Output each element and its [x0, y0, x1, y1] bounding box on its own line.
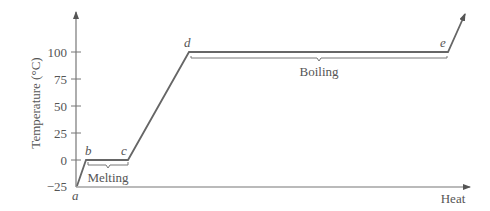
melting-label: Melting: [87, 170, 129, 185]
boiling-label: Boiling: [299, 64, 339, 79]
ytick-75: 75: [54, 72, 67, 87]
ytick-50: 50: [54, 99, 67, 114]
point-label-a: a: [72, 188, 79, 203]
x-axis-label: Heat: [441, 191, 466, 206]
ytick-100: 100: [48, 45, 68, 60]
ytick-25: 25: [54, 126, 67, 141]
boiling-brace: [191, 56, 447, 61]
point-label-b: b: [85, 143, 92, 158]
ytick-neg25: −25: [47, 179, 67, 194]
point-label-c: c: [121, 143, 127, 158]
heating-curve-chart: 100 75 50 25 0 −25 Temperature (°C) Heat…: [0, 0, 490, 211]
y-axis-label: Temperature (°C): [28, 57, 43, 148]
ytick-0: 0: [61, 153, 68, 168]
heating-curve-line: [77, 14, 465, 186]
melting-brace: [88, 162, 128, 168]
point-label-e: e: [440, 35, 446, 50]
point-label-d: d: [184, 35, 191, 50]
